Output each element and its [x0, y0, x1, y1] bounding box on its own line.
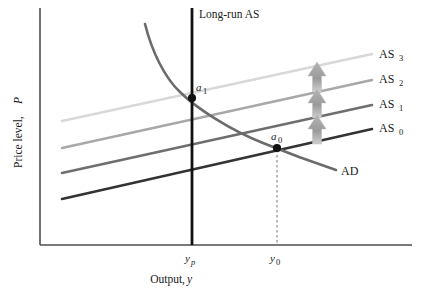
- y0-tick-sub: 0: [276, 257, 280, 267]
- x-axis-title-text: Output,: [150, 273, 185, 286]
- a0-label-base: a: [271, 130, 277, 142]
- curve-as3: [62, 54, 372, 121]
- y-axis-title-text: Price level,: [12, 116, 25, 168]
- x-tick-label-y0: y 0: [269, 252, 280, 267]
- as-ad-diagram: AS 3 AS 2 AS 1 AS 0 AD Long-run AS a 1 a…: [0, 0, 429, 293]
- as1-label-sub: 1: [399, 103, 403, 113]
- a0-label-sub: 0: [278, 135, 282, 145]
- point-label-a1: a 1: [196, 81, 207, 96]
- diagram-canvas: AS 3 AS 2 AS 1 AS 0 AD Long-run AS a 1 a…: [0, 0, 429, 293]
- as0-label-sub: 0: [399, 127, 403, 137]
- shift-arrows-group: [308, 62, 326, 144]
- yp-tick-sub: p: [190, 257, 195, 267]
- x-axis-title-var: y: [186, 273, 193, 286]
- point-marker-a0: [273, 144, 281, 152]
- a1-label-base: a: [196, 81, 202, 93]
- curve-label-as1: AS 1: [379, 97, 403, 113]
- as2-label-base: AS: [379, 72, 394, 86]
- point-label-a0: a 0: [271, 130, 282, 145]
- y-axis-title-var: P: [12, 97, 24, 105]
- curve-label-as0: AS 0: [379, 121, 403, 137]
- point-marker-a1: [188, 94, 196, 102]
- as3-label-sub: 3: [399, 53, 403, 63]
- x-axis-title-group: Output, y: [150, 273, 193, 286]
- yp-tick-base: y: [184, 252, 190, 264]
- a1-label-sub: 1: [203, 86, 207, 96]
- ad-curve-label: AD: [341, 164, 359, 178]
- y-axis-title-group: Price level, P: [12, 97, 25, 168]
- curve-label-as2: AS 2: [379, 72, 403, 88]
- long-run-as-label: Long-run AS: [199, 8, 259, 21]
- as1-label-base: AS: [379, 97, 394, 111]
- as0-label-base: AS: [379, 121, 394, 135]
- x-tick-label-yp: y p: [184, 252, 195, 267]
- curve-label-as3: AS 3: [379, 47, 403, 63]
- as3-label-base: AS: [379, 47, 394, 61]
- as2-label-sub: 2: [399, 78, 403, 88]
- as3-line: [62, 54, 372, 121]
- y0-tick-base: y: [269, 252, 275, 264]
